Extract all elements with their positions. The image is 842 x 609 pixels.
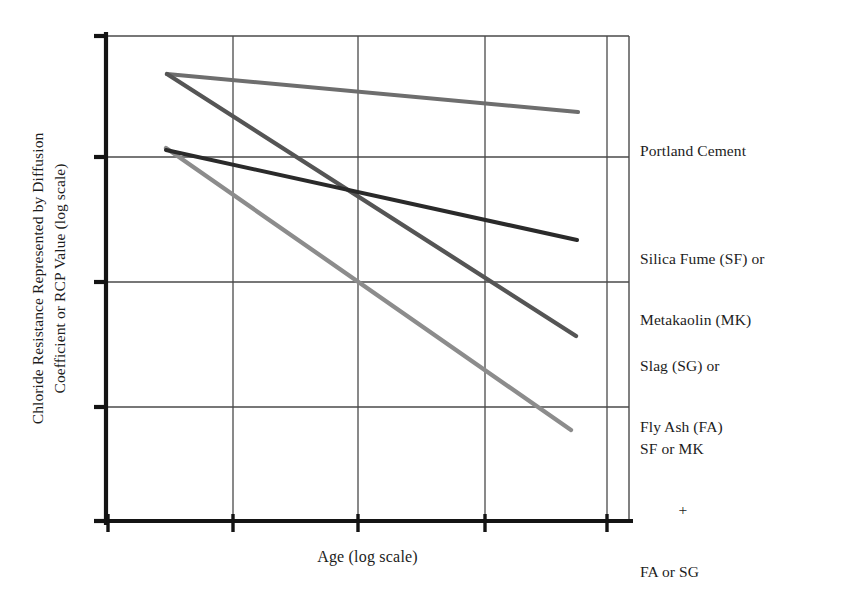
series-label-portland-cement: Portland Cement	[640, 100, 746, 202]
x-axis-label: Age (log scale)	[106, 548, 629, 566]
series-label-portland-cement-line-1: Portland Cement	[640, 141, 746, 161]
series-label-sf-fa-blend-line-3: FA or SG	[640, 562, 726, 582]
series-lines	[166, 74, 578, 430]
series-label-silica-fume-metakaolin-line-1: Silica Fume (SF) or	[640, 249, 765, 269]
series-label-sf-fa-blend-line-2: +	[640, 500, 726, 520]
series-label-sf-fa-blend: SF or MK + FA or SG	[640, 398, 726, 609]
series-label-sf-fa-blend-line-1: SF or MK	[640, 439, 726, 459]
series-line-portland-cement	[167, 74, 578, 112]
chart-figure: Chloride Resistance Represented by Diffu…	[0, 0, 842, 609]
series-label-slag-fly-ash-line-1: Slag (SG) or	[640, 356, 723, 376]
series-line-silica-fume-metakaolin	[166, 150, 577, 240]
series-line-sf-fa-blend	[166, 148, 571, 430]
series-line-slag-fly-ash	[167, 74, 576, 336]
